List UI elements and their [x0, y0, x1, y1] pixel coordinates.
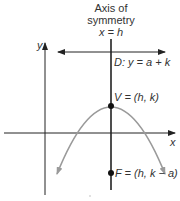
x-axis-label: x: [169, 136, 176, 148]
vertex-label: V = (h, k): [114, 91, 159, 103]
directrix-label: D: y = a + k: [114, 56, 171, 68]
axis-title-line1: Axis of: [94, 2, 128, 14]
axis-title-line2: symmetry: [87, 14, 135, 26]
focus-label: F = (h, k − a): [115, 167, 178, 179]
parabola-diagram: Axis of symmetry x = h y x D: y = a + k …: [0, 0, 180, 201]
y-axis-label: y: [36, 39, 44, 51]
vertex-point: [108, 103, 114, 109]
axis-equation: x = h: [98, 26, 123, 38]
focus-point: [108, 170, 114, 176]
diagram-canvas: Axis of symmetry x = h y x D: y = a + k …: [0, 0, 180, 201]
artifact-dot: [89, 195, 91, 197]
